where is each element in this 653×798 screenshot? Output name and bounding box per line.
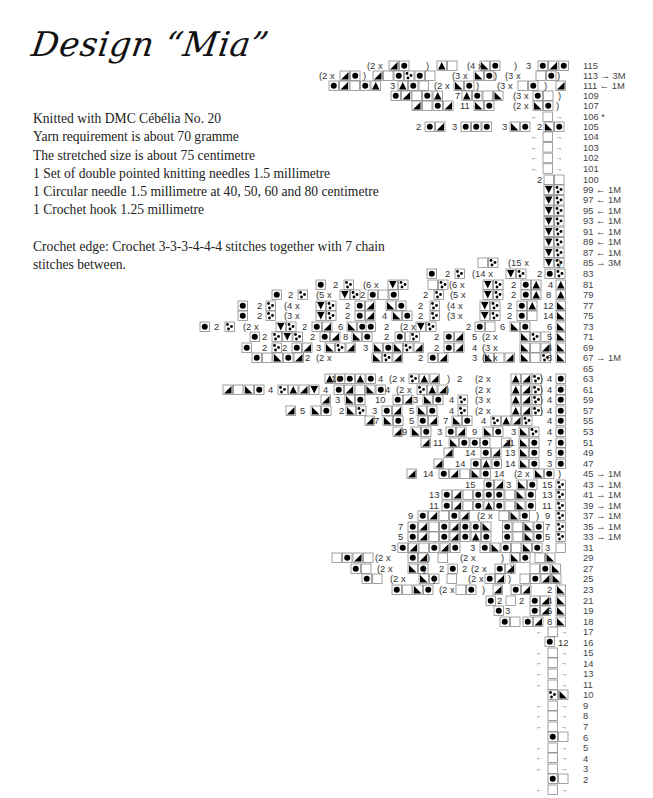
- svg-text:→: →: [561, 712, 568, 720]
- repeat-count: 4: [268, 385, 273, 395]
- repeat-count: 2: [310, 332, 315, 342]
- repeat-count: ): [427, 553, 430, 563]
- svg-text:←: ←: [536, 670, 543, 678]
- row-label: 85 → 3M: [583, 258, 621, 268]
- svg-text:←: ←: [536, 754, 543, 762]
- repeat-count: 2: [333, 280, 338, 290]
- repeat-count: ): [536, 511, 539, 521]
- repeat-count: 4: [449, 406, 454, 416]
- repeat-count: 13: [429, 490, 439, 500]
- repeat-count: 9: [545, 511, 550, 521]
- svg-text:→: →: [561, 723, 568, 731]
- row-label: 23: [583, 585, 593, 595]
- repeat-count: 11: [433, 438, 443, 448]
- repeat-count: 2: [305, 353, 310, 363]
- repeat-count: 8: [547, 617, 552, 627]
- repeat-count: 9: [402, 427, 407, 437]
- row-label: 49: [583, 448, 593, 458]
- repeat-count: 4: [382, 311, 387, 321]
- repeat-count: 3: [390, 81, 395, 91]
- repeat-count: 3: [452, 122, 457, 132]
- svg-text:→: →: [556, 133, 563, 141]
- repeat-count: 13: [542, 490, 552, 500]
- row-label: 5: [583, 743, 588, 753]
- repeat-count: 9: [472, 427, 477, 437]
- repeat-count: (3 x: [284, 311, 300, 321]
- row-label: 37 → 1M: [583, 511, 621, 521]
- repeat-count: 13: [505, 448, 515, 458]
- row-label: 55: [583, 416, 593, 426]
- repeat-count: (4 x: [467, 61, 483, 71]
- repeat-count: 2: [288, 290, 293, 300]
- repeat-count: 2: [439, 564, 444, 574]
- row-label: 25: [583, 574, 593, 584]
- repeat-count: (2 x: [460, 553, 476, 563]
- repeat-count: 14: [465, 448, 475, 458]
- repeat-count: (5 x: [450, 290, 466, 300]
- row-label: 89 ← 1M: [583, 237, 621, 247]
- repeat-count: ): [540, 406, 543, 416]
- svg-text:←: ←: [536, 723, 543, 731]
- svg-text:→: →: [561, 659, 568, 667]
- row-label: 104: [583, 132, 599, 142]
- repeat-count: 2: [434, 332, 439, 342]
- repeat-count: 4: [378, 374, 383, 384]
- knitting-chart: ←→←→←→←→←→←→←→←→←→←→←→←→←→←→←→←→←→ 11511…: [0, 0, 653, 798]
- repeat-count: (2 x: [319, 71, 335, 81]
- repeat-count: 2: [282, 343, 287, 353]
- repeat-count: 2: [262, 343, 267, 353]
- repeat-count: 14: [455, 459, 465, 469]
- svg-text:←: ←: [531, 113, 538, 121]
- svg-text:→: →: [556, 144, 563, 152]
- row-label: 19: [583, 606, 593, 616]
- repeat-count: (2 x: [468, 574, 484, 584]
- repeat-count: (2 x: [396, 385, 412, 395]
- repeat-count: 2: [214, 322, 219, 332]
- repeat-count: 2: [547, 585, 552, 595]
- row-label: 102: [583, 153, 599, 163]
- repeat-count: ): [426, 61, 429, 71]
- repeat-count: 2: [537, 175, 542, 185]
- repeat-count: 3: [391, 543, 396, 553]
- row-label: 97 ← 1M: [583, 195, 621, 205]
- row-label: 79: [583, 290, 593, 300]
- row-label: 8: [583, 711, 588, 721]
- repeat-count: 3: [547, 459, 552, 469]
- repeat-count: 7: [443, 416, 448, 426]
- repeat-count: 7: [374, 416, 379, 426]
- repeat-count: 5: [409, 416, 414, 426]
- repeat-count: 3: [506, 480, 511, 490]
- repeat-count: 14: [543, 311, 553, 321]
- repeat-count: 2: [511, 290, 516, 300]
- repeat-count: ): [423, 564, 426, 574]
- repeat-count: ): [363, 71, 366, 81]
- row-label: 83: [583, 269, 593, 279]
- repeat-count: 5: [472, 332, 477, 342]
- svg-text:←: ←: [536, 744, 543, 752]
- repeat-count: 3: [437, 427, 442, 437]
- repeat-count: (2 x: [475, 374, 491, 384]
- svg-text:→: →: [561, 670, 568, 678]
- repeat-count: (14 x: [472, 269, 493, 279]
- row-label: 3: [583, 764, 588, 774]
- repeat-count: 4: [449, 395, 454, 405]
- repeat-count: 2: [457, 374, 462, 384]
- svg-text:←: ←: [531, 133, 538, 141]
- repeat-count: 2: [416, 122, 421, 132]
- repeat-count: (2 x: [375, 553, 391, 563]
- svg-text:←: ←: [536, 702, 543, 710]
- repeat-count: 11: [460, 101, 470, 111]
- repeat-count: 2: [384, 332, 389, 342]
- repeat-count: 16: [331, 374, 341, 384]
- repeat-count: 5: [545, 532, 550, 542]
- svg-text:→: →: [561, 628, 568, 636]
- repeat-count: 3: [526, 61, 531, 71]
- svg-text:←: ←: [531, 154, 538, 162]
- repeat-count: 9: [408, 511, 413, 521]
- row-label: 101: [583, 164, 599, 174]
- repeat-count: ): [508, 574, 511, 584]
- row-label: 13: [583, 669, 593, 679]
- repeat-count: 4: [547, 416, 552, 426]
- repeat-count: 15: [465, 480, 475, 490]
- row-label: 107: [583, 101, 599, 111]
